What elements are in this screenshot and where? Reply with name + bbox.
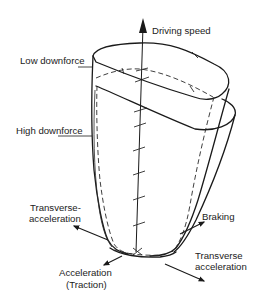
transverse-right-label-2: acceleration <box>195 261 247 272</box>
acceleration-arrow <box>104 256 122 265</box>
left-outline-low <box>92 56 128 254</box>
transverse-left-label-2: acceleration <box>29 213 81 224</box>
left-outline-high <box>97 86 132 254</box>
driving-speed-arrowhead <box>139 18 147 33</box>
right-outline-dashed <box>172 97 214 252</box>
driving-speed-axis <box>136 26 143 252</box>
braking-arrow <box>180 222 204 234</box>
low-downforce-label: Low downforce <box>20 55 85 66</box>
friction-envelope-diagram: Driving speed Low downforce High downfor… <box>0 0 262 306</box>
braking-label: Braking <box>202 211 235 222</box>
high-downforce-top-outline <box>96 86 235 130</box>
low-downforce-dashed-section <box>96 69 213 97</box>
acceleration-label-1: Acceleration <box>59 267 112 278</box>
bottom-base <box>110 248 176 257</box>
acceleration-label-2: (Traction) <box>66 279 107 290</box>
high-downforce-label: High downforce <box>16 125 83 136</box>
driving-speed-label: Driving speed <box>152 25 211 36</box>
transverse-right-label-1: Transverse <box>195 250 243 261</box>
transverse-left-label-1: Transverse- <box>30 202 81 213</box>
low-downforce-top-outline <box>93 43 229 99</box>
